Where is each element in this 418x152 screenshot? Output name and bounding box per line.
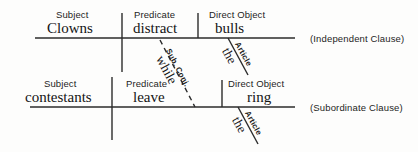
role-label-predicate-independent: Predicate bbox=[134, 9, 175, 20]
word-predicate-independent: distract bbox=[133, 20, 177, 37]
word-predicate-subordinate: leave bbox=[133, 89, 165, 106]
role-label-object-independent: Direct Object bbox=[209, 9, 265, 20]
word-subject-independent: Clowns bbox=[47, 20, 93, 37]
role-label-subject-independent: Subject bbox=[56, 9, 88, 20]
word-object-independent: bulls bbox=[215, 20, 244, 37]
word-object-subordinate: ring bbox=[247, 89, 271, 106]
role-label-predicate-subordinate: Predicate bbox=[126, 78, 167, 89]
role-label-object-subordinate: Direct Object bbox=[228, 78, 284, 89]
sentence-diagram: Subject Clowns Predicate distract Direct… bbox=[0, 0, 418, 152]
clause-note-subordinate: (Subordinate Clause) bbox=[310, 102, 403, 113]
word-subject-subordinate: contestants bbox=[25, 89, 92, 106]
clause-note-independent: (Independent Clause) bbox=[310, 33, 404, 44]
role-label-subject-subordinate: Subject bbox=[44, 78, 76, 89]
